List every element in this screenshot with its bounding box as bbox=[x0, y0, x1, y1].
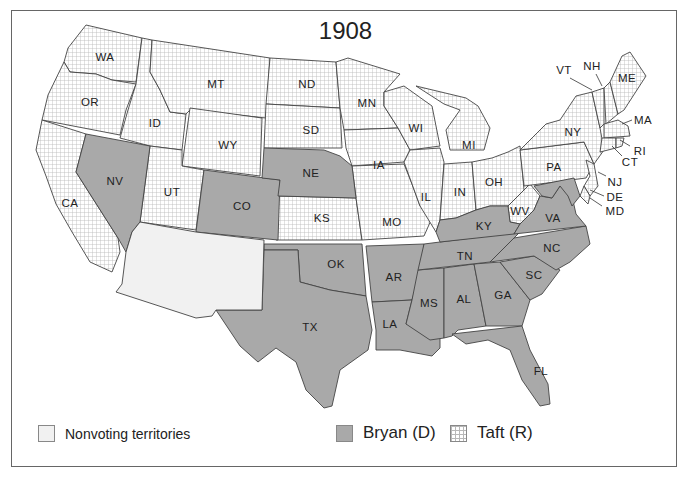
state-ct bbox=[600, 138, 616, 152]
label-al: AL bbox=[456, 293, 471, 305]
label-wv: WV bbox=[510, 205, 530, 217]
label-ne: NE bbox=[303, 167, 320, 179]
label-pa: PA bbox=[546, 161, 562, 173]
state-ri bbox=[616, 138, 624, 148]
label-mo: MO bbox=[382, 216, 402, 228]
label-mn: MN bbox=[358, 97, 377, 109]
taft-swatch bbox=[450, 425, 467, 442]
label-va: VA bbox=[545, 212, 561, 224]
label-ny: NY bbox=[565, 126, 582, 138]
label-mi: MI bbox=[462, 139, 476, 151]
label-ct: CT bbox=[622, 156, 638, 168]
label-ca: CA bbox=[62, 197, 79, 209]
label-ri: RI bbox=[634, 145, 647, 157]
bryan-swatch bbox=[336, 425, 353, 442]
nonvoting-swatch bbox=[38, 425, 55, 442]
label-ga: GA bbox=[494, 289, 512, 301]
legend-taft: Taft (R) bbox=[450, 423, 533, 443]
leader-nh bbox=[596, 74, 602, 86]
label-md: MD bbox=[606, 205, 625, 217]
legend-nonvoting: Nonvoting territories bbox=[38, 425, 190, 442]
legend-nonvoting-label: Nonvoting territories bbox=[65, 426, 190, 442]
legend-bryan: Bryan (D) bbox=[336, 423, 436, 443]
leader-vt bbox=[570, 78, 592, 90]
label-mt: MT bbox=[207, 78, 225, 90]
label-wa: WA bbox=[95, 51, 114, 63]
label-nd: ND bbox=[298, 78, 316, 90]
label-ok: OK bbox=[327, 258, 345, 270]
label-nh: NH bbox=[583, 60, 601, 72]
leader-ma bbox=[622, 120, 632, 124]
label-oh: OH bbox=[485, 176, 503, 188]
label-wy: WY bbox=[218, 139, 238, 151]
label-ms: MS bbox=[420, 297, 438, 309]
label-fl: FL bbox=[534, 365, 549, 377]
label-me: ME bbox=[618, 72, 636, 84]
us-electoral-map: WA OR CA ID NV MT WY UT CO ND SD NE KS O… bbox=[0, 0, 691, 481]
label-sc: SC bbox=[526, 269, 543, 281]
label-nj: NJ bbox=[607, 176, 622, 188]
label-il: IL bbox=[421, 191, 432, 203]
label-or: OR bbox=[81, 96, 99, 108]
label-nc: NC bbox=[543, 242, 561, 254]
legend-taft-label: Taft (R) bbox=[477, 423, 533, 443]
label-id: ID bbox=[149, 117, 162, 129]
label-vt: VT bbox=[556, 64, 572, 76]
label-co: CO bbox=[233, 200, 251, 212]
label-wi: WI bbox=[408, 122, 423, 134]
label-in: IN bbox=[454, 186, 467, 198]
label-tn: TN bbox=[457, 250, 473, 262]
label-de: DE bbox=[607, 191, 624, 203]
label-ar: AR bbox=[386, 271, 403, 283]
label-ks: KS bbox=[314, 212, 330, 224]
label-ia: IA bbox=[373, 159, 385, 171]
label-ky: KY bbox=[476, 220, 492, 232]
label-la: LA bbox=[382, 318, 397, 330]
label-sd: SD bbox=[303, 124, 320, 136]
leader-md bbox=[590, 198, 602, 206]
label-tx: TX bbox=[302, 321, 318, 333]
leader-nj bbox=[598, 172, 606, 176]
label-ut: UT bbox=[164, 186, 180, 198]
label-ma: MA bbox=[634, 114, 652, 126]
legend-bryan-label: Bryan (D) bbox=[363, 423, 436, 443]
label-nv: NV bbox=[107, 175, 124, 187]
